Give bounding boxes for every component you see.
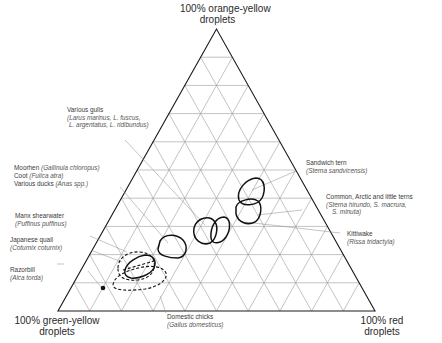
dashed-regions xyxy=(113,252,166,290)
label-razorbill: Razorbill (Alca torda) xyxy=(10,266,43,281)
label-terns: Common, Arctic and little terns (Sterna … xyxy=(326,193,413,216)
label-coot: Coot (Fulica atra) xyxy=(14,172,63,180)
label-ducks: Various ducks (Anas spp.) xyxy=(14,180,88,188)
label-sandwich-tern: Sandwich tern (Sterna sandvicensis) xyxy=(306,159,367,174)
region-gulls xyxy=(194,218,217,244)
label-moorhen: Moorhen (Gallinula chloropus) xyxy=(14,164,100,172)
vertex-label-bottom-left: 100% green-yellow droplets xyxy=(7,315,107,337)
label-kittiwake: Kittiwake (Rissa tridactyla) xyxy=(347,230,395,245)
razorbill-point xyxy=(101,286,106,291)
ternary-diagram: 100% orange-yellow droplets 100% green-y… xyxy=(0,0,442,343)
label-chicks: Domestic chicks (Gallus domesticus) xyxy=(167,313,223,328)
grid xyxy=(73,57,359,311)
label-quail: Japanese quail (Coturnix coturnix) xyxy=(10,236,62,251)
vertex-label-bottom-right: 100% red droplets xyxy=(352,315,412,337)
label-shearwater: Manx shearwater (Puffinus puffinus) xyxy=(15,212,67,227)
vertex-label-top: 100% orange-yellow droplets xyxy=(180,3,255,25)
label-gulls: Various gulls (Larus marinus, L. fuscus,… xyxy=(67,106,149,129)
